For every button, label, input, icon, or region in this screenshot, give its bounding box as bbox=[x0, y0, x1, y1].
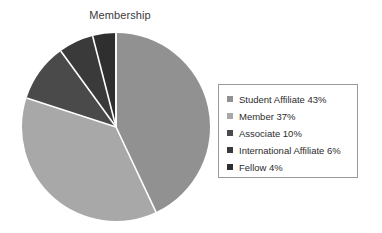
legend-swatch-icon bbox=[227, 147, 233, 153]
legend-item-fellow[interactable]: Fellow 4% bbox=[219, 159, 357, 175]
pie-plot-area bbox=[0, 26, 215, 233]
legend-item-label: Fellow 4% bbox=[239, 162, 283, 173]
legend-item-label: Member 37% bbox=[239, 111, 296, 122]
legend-swatch-icon bbox=[227, 164, 233, 170]
legend-swatch-icon bbox=[227, 113, 233, 119]
legend-swatch-icon bbox=[227, 130, 233, 136]
legend-item-member[interactable]: Member 37% bbox=[219, 108, 357, 124]
legend-item-student-affiliate[interactable]: Student Affiliate 43% bbox=[219, 91, 357, 107]
legend-swatch-icon bbox=[227, 96, 233, 102]
legend-item-label: Associate 10% bbox=[239, 128, 302, 139]
legend-item-associate[interactable]: Associate 10% bbox=[219, 125, 357, 141]
legend-item-international-affiliate[interactable]: International Affiliate 6% bbox=[219, 142, 357, 158]
legend-item-label: Student Affiliate 43% bbox=[239, 94, 327, 105]
legend: Student Affiliate 43% Member 37% Associa… bbox=[218, 84, 358, 178]
chart-title: Membership bbox=[60, 9, 180, 21]
pie-chart: Membership Student Affiliate 43% Member … bbox=[0, 0, 382, 233]
pie-svg bbox=[0, 26, 215, 233]
legend-item-label: International Affiliate 6% bbox=[239, 145, 341, 156]
